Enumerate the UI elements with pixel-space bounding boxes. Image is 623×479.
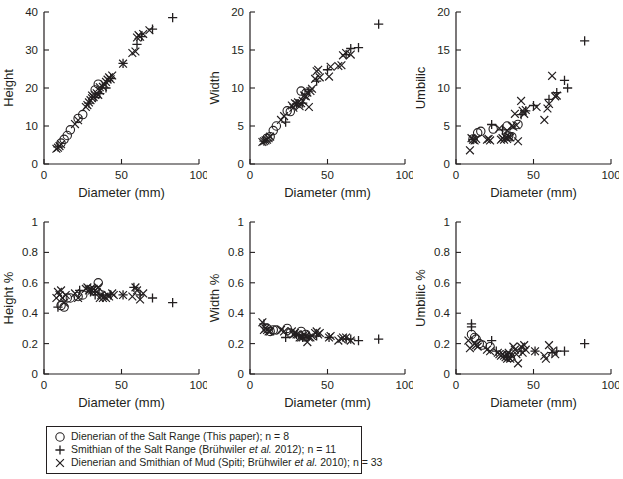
svg-text:0: 0 xyxy=(41,169,47,181)
svg-text:0: 0 xyxy=(238,158,244,170)
svg-text:0.2: 0.2 xyxy=(22,338,38,350)
subplot-height: 050100010203040Diameter (mm)Height xyxy=(2,0,207,206)
svg-text:0.4: 0.4 xyxy=(22,307,39,319)
svg-text:0.2: 0.2 xyxy=(434,338,450,350)
circle-marker-icon xyxy=(53,431,67,443)
svg-text:10: 10 xyxy=(25,120,38,132)
svg-text:0.6: 0.6 xyxy=(434,277,450,289)
x-marker-icon xyxy=(53,457,67,469)
svg-text:100: 100 xyxy=(189,379,207,391)
svg-text:0.6: 0.6 xyxy=(22,277,38,289)
svg-text:Diameter (mm): Diameter (mm) xyxy=(490,185,577,200)
legend-item-label: Dienerian of the Salt Range (This paper)… xyxy=(71,430,289,443)
subplot-width: 05010005101520Diameter (mm)Width xyxy=(208,0,413,206)
subplot-height-pct: 05010000.20.40.60.81Diameter (mm)Height … xyxy=(2,210,207,416)
svg-text:100: 100 xyxy=(601,169,619,181)
plus-marker-icon xyxy=(53,444,67,456)
svg-text:50: 50 xyxy=(115,379,128,391)
svg-text:1: 1 xyxy=(32,216,38,228)
svg-text:0: 0 xyxy=(247,379,253,391)
subplot-width-pct: 05010000.20.40.60.81Diameter (mm)Width % xyxy=(208,210,413,416)
svg-text:Width: Width xyxy=(208,71,222,104)
svg-text:0: 0 xyxy=(41,379,47,391)
svg-text:50: 50 xyxy=(321,379,334,391)
svg-text:20: 20 xyxy=(25,82,38,94)
svg-text:0.8: 0.8 xyxy=(434,246,450,258)
svg-text:Umbilic %: Umbilic % xyxy=(414,269,428,327)
svg-text:1: 1 xyxy=(238,216,244,228)
svg-text:Umbilic: Umbilic xyxy=(414,66,428,109)
legend: Dienerian of the Salt Range (This paper)… xyxy=(46,426,362,474)
svg-text:10: 10 xyxy=(437,82,450,94)
svg-text:0.4: 0.4 xyxy=(228,307,245,319)
svg-text:0.8: 0.8 xyxy=(228,246,244,258)
svg-text:50: 50 xyxy=(527,169,540,181)
svg-text:0: 0 xyxy=(444,158,450,170)
svg-text:0: 0 xyxy=(238,368,244,380)
svg-text:0.8: 0.8 xyxy=(22,246,38,258)
svg-text:Diameter (mm): Diameter (mm) xyxy=(78,185,165,200)
svg-text:0: 0 xyxy=(247,169,253,181)
svg-text:50: 50 xyxy=(115,169,128,181)
svg-text:Diameter (mm): Diameter (mm) xyxy=(284,395,371,410)
svg-text:100: 100 xyxy=(395,169,413,181)
svg-text:0: 0 xyxy=(32,368,38,380)
svg-text:100: 100 xyxy=(189,169,207,181)
figure: 050100010203040Diameter (mm)Height 05010… xyxy=(0,0,623,479)
legend-item-label: Smithian of the Salt Range (Brühwiler et… xyxy=(71,443,336,456)
svg-text:Diameter (mm): Diameter (mm) xyxy=(284,185,371,200)
svg-text:100: 100 xyxy=(601,379,619,391)
svg-text:5: 5 xyxy=(238,120,244,132)
legend-item: Dienerian of the Salt Range (This paper)… xyxy=(53,430,353,443)
svg-text:1: 1 xyxy=(444,216,450,228)
svg-text:0.4: 0.4 xyxy=(434,307,451,319)
svg-text:0: 0 xyxy=(444,368,450,380)
svg-text:40: 40 xyxy=(25,6,38,18)
svg-text:Diameter (mm): Diameter (mm) xyxy=(78,395,165,410)
svg-text:5: 5 xyxy=(444,120,450,132)
svg-text:0.2: 0.2 xyxy=(228,338,244,350)
svg-text:100: 100 xyxy=(395,379,413,391)
legend-item: Dienerian and Smithian of Mud (Spiti; Br… xyxy=(53,456,353,469)
svg-text:30: 30 xyxy=(25,44,38,56)
svg-text:50: 50 xyxy=(527,379,540,391)
legend-item-label: Dienerian and Smithian of Mud (Spiti; Br… xyxy=(71,456,382,469)
svg-text:10: 10 xyxy=(231,82,244,94)
subplot-umbilic-pct: 05010000.20.40.60.81Diameter (mm)Umbilic… xyxy=(414,210,619,416)
svg-text:0: 0 xyxy=(453,169,459,181)
svg-text:15: 15 xyxy=(437,44,450,56)
svg-text:15: 15 xyxy=(231,44,244,56)
subplot-umbilic: 05010005101520Diameter (mm)Umbilic xyxy=(414,0,619,206)
svg-text:20: 20 xyxy=(231,6,244,18)
legend-item: Smithian of the Salt Range (Brühwiler et… xyxy=(53,443,353,456)
svg-text:Height %: Height % xyxy=(2,271,16,324)
svg-text:Height: Height xyxy=(2,69,16,107)
svg-text:20: 20 xyxy=(437,6,450,18)
svg-text:Diameter (mm): Diameter (mm) xyxy=(490,395,577,410)
svg-text:Width %: Width % xyxy=(208,273,222,322)
svg-text:0.6: 0.6 xyxy=(228,277,244,289)
svg-text:50: 50 xyxy=(321,169,334,181)
svg-text:0: 0 xyxy=(453,379,459,391)
svg-text:0: 0 xyxy=(32,158,38,170)
